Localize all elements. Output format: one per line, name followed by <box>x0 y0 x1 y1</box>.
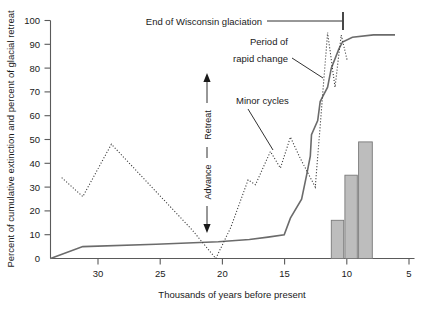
x-axis-title: Thousands of years before present <box>158 289 306 300</box>
y-axis-title: Percent of cumulative extinction and per… <box>5 10 16 268</box>
y-tick-label-10: 10 <box>29 229 40 240</box>
rapid-change-label-line1: Period of <box>250 36 288 47</box>
chart-figure: 100 90 80 70 60 50 40 30 20 10 0 30 25 2… <box>0 0 427 317</box>
x-tick-label-30: 30 <box>93 268 104 279</box>
bar-3 <box>359 142 373 259</box>
end-of-wisconsin-label: End of Wisconsin glaciation <box>146 16 262 27</box>
bar-1 <box>331 220 343 258</box>
x-tick-label-15: 15 <box>279 268 290 279</box>
bar-2 <box>345 175 357 258</box>
retreat-label: Retreat <box>203 110 213 140</box>
rapid-change-label-line2: rapid change <box>233 53 288 64</box>
y-tick-label-90: 90 <box>29 39 40 50</box>
y-tick-label-30: 30 <box>29 182 40 193</box>
y-tick-label-80: 80 <box>29 63 40 74</box>
x-tick-label-20: 20 <box>217 268 228 279</box>
x-tick-label-10: 10 <box>342 268 353 279</box>
y-tick-label-70: 70 <box>29 86 40 97</box>
y-tick-label-50: 50 <box>29 134 40 145</box>
y-tick-label-40: 40 <box>29 158 40 169</box>
x-tick-label-25: 25 <box>155 268 166 279</box>
y-tick-label-0: 0 <box>35 253 40 264</box>
x-tick-label-5: 5 <box>406 268 411 279</box>
y-tick-label-60: 60 <box>29 110 40 121</box>
advance-label: Advance <box>203 164 213 199</box>
minor-cycles-label: Minor cycles <box>236 95 289 106</box>
glacial-retreat-extinction-chart: 100 90 80 70 60 50 40 30 20 10 0 30 25 2… <box>0 0 427 317</box>
y-tick-label-20: 20 <box>29 205 40 216</box>
y-tick-label-100: 100 <box>24 15 40 26</box>
